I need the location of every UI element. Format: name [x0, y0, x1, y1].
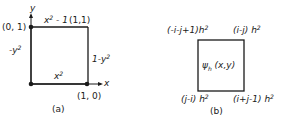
corner-label-1-1: (1,1)	[69, 15, 90, 25]
corner-label-top-right: (i-j) h2	[233, 25, 261, 35]
point-1-0	[85, 82, 90, 87]
corner-label-top-left: (-i-j+1)h2	[167, 25, 208, 35]
point-0-1	[29, 25, 34, 30]
panel-b-caption: (b)	[210, 106, 223, 116]
corner-label-bottom-left: (j-i) h2	[181, 94, 209, 104]
corner-label-1-0: (1, 0)	[77, 91, 101, 101]
y-axis-label: y	[30, 3, 35, 13]
x-axis-arrow-icon	[98, 82, 103, 86]
x-axis-label: x	[104, 78, 109, 88]
y-axis-arrow-icon	[29, 13, 33, 18]
corner-label-bottom-right: (i+j-1) h2	[233, 94, 274, 104]
edge-label-right: 1-y2	[92, 54, 110, 64]
psi-function-label: ψh (x,y)	[202, 60, 235, 74]
edge-label-left: -y2	[9, 45, 21, 55]
edge-label-top: x2 - 1	[44, 15, 68, 25]
corner-label-0-1: (0, 1)	[2, 22, 26, 32]
panel-a-caption: (a)	[52, 104, 65, 114]
panel-a-axes	[31, 15, 101, 84]
edge-label-bottom: x2	[54, 71, 63, 81]
point-0-0	[29, 82, 34, 87]
